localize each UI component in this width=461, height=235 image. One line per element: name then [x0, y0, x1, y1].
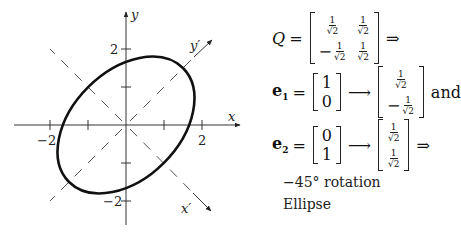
y-prime-label: y′	[189, 38, 200, 53]
e1-symbol: e1	[272, 81, 288, 102]
implies-symbol: ⇒	[386, 29, 399, 48]
e2-symbol: e2	[272, 134, 288, 155]
x-tick-label-pos2: 2	[198, 133, 206, 148]
x-axis-label: x	[228, 109, 236, 124]
e1-mapping-equation: e1 = 1 0 ⟶ 1√2 − 1√2 and	[272, 66, 461, 118]
e1-image-vector: 1√2 − 1√2	[378, 66, 424, 118]
q-matrix-equation: Q = 1√2 − 1√2 1√2 1√2 ⇒	[272, 12, 403, 64]
e2-mapping-equation: e2 = 0 1 ⟶ 1√2 1√2 ⇒	[272, 119, 434, 171]
matrix-entry: 1√2	[356, 41, 369, 62]
x-prime-arrow	[193, 193, 211, 211]
ellipse-diagram: x y y′ x′ −2 2 2 −2	[0, 0, 245, 235]
maps-to-arrow: ⟶	[348, 136, 371, 155]
rotation-text: −45° rotation	[283, 174, 381, 190]
y-tick-label-pos2: 2	[110, 42, 118, 57]
e2-vector: 0 1	[313, 126, 341, 164]
e1-vector: 1 0	[313, 73, 341, 111]
conclusion-text: Ellipse	[283, 196, 331, 212]
y-tick-label-neg2: −2	[103, 194, 122, 209]
equals-sign: =	[289, 29, 302, 48]
matrix-entry: 1√2	[326, 15, 339, 36]
y-prime-dashed-axis-negative	[50, 129, 122, 201]
e2-image-vector: 1√2 1√2	[378, 119, 409, 171]
equals-sign: =	[292, 83, 305, 102]
x-prime-dashed-axis-negative	[50, 49, 122, 121]
y-axis-label: y	[130, 7, 139, 22]
q-matrix: 1√2 − 1√2 1√2 1√2	[310, 12, 379, 64]
maps-to-arrow: ⟶	[348, 83, 371, 102]
q-symbol: Q	[272, 29, 285, 48]
equals-sign: =	[292, 136, 305, 155]
and-text: and	[431, 83, 461, 102]
implies-symbol: ⇒	[416, 136, 429, 155]
x-tick-label-neg2: −2	[37, 133, 56, 148]
matrix-entry: 1√2	[333, 41, 346, 62]
matrix-entry: 1√2	[356, 15, 369, 36]
y-prime-dashed-axis	[130, 57, 194, 121]
x-prime-label: x′	[181, 201, 191, 216]
